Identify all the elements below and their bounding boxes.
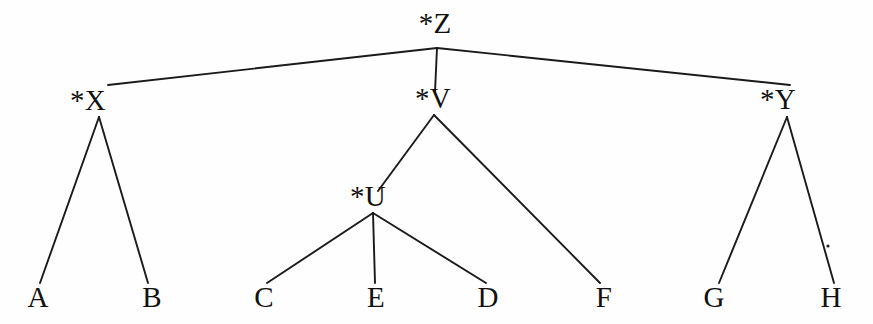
tree-node-y-label[interactable]: *Y [760,83,796,115]
tree-node-g-label[interactable]: G [703,281,724,313]
tree-node-x-label[interactable]: *X [70,84,106,116]
tree-edge-u-c [267,213,373,283]
tree-edge-z-y [437,48,790,85]
scan-speck [826,244,829,247]
tree-edge-u-d [373,213,486,283]
tree-diagram-svg: *Z*X*V*Y*UABCEDFGH [0,0,873,324]
tree-edge-u-e [373,213,375,283]
tree-node-e-label[interactable]: E [367,281,385,313]
tree-edge-v-f [434,115,600,283]
tree-node-z-label[interactable]: *Z [419,7,452,39]
tree-edge-x-b [99,117,148,283]
tree-node-f-label[interactable]: F [596,281,612,313]
tree-diagram-canvas: *Z*X*V*Y*UABCEDFGH [0,0,873,324]
tree-node-d-label[interactable]: D [477,281,498,313]
tree-edge-v-u [378,115,434,191]
tree-node-u-label[interactable]: *U [350,180,386,212]
tree-edge-z-x [108,48,437,85]
tree-node-h-label[interactable]: H [820,281,841,313]
tree-edge-x-a [40,117,99,283]
tree-node-v-label[interactable]: *V [415,82,451,114]
tree-node-b-label[interactable]: B [142,281,162,313]
tree-node-c-label[interactable]: C [254,281,274,313]
tree-edge-y-h [787,117,834,283]
scan-artifacts-group [826,244,829,247]
tree-edge-y-g [719,117,787,283]
tree-nodes-group: *Z*X*V*Y*UABCEDFGH [27,7,841,313]
tree-node-a-label[interactable]: A [27,281,48,313]
